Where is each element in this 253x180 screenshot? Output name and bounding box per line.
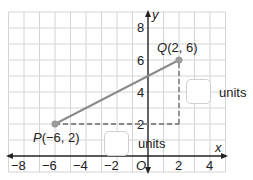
x-tick-minus-8: −8 [11, 159, 26, 172]
vertical-length-answer-box[interactable] [186, 79, 211, 104]
horizontal-units-label: units [138, 137, 165, 150]
x-tick-4: 4 [206, 159, 213, 172]
point-q-label: Q(2, 6) [157, 41, 197, 54]
y-tick-2: 2 [137, 118, 144, 131]
point-p-name: P [33, 130, 42, 145]
x-tick-2: 2 [175, 159, 182, 172]
y-tick-8: 8 [137, 21, 144, 34]
y-tick-6: 6 [137, 54, 144, 67]
point-p-label: P(−6, 2) [33, 131, 80, 144]
x-axis-label: x [215, 141, 222, 154]
vertical-units-label: units [219, 86, 246, 99]
point-p [52, 121, 59, 128]
origin-label: O [136, 159, 146, 172]
point-q-coords: (2, 6) [167, 40, 197, 55]
x-tick-minus-4: −4 [73, 159, 88, 172]
point-p-coords: (−6, 2) [42, 130, 80, 145]
x-tick-minus-6: −6 [42, 159, 57, 172]
point-q-name: Q [157, 40, 167, 55]
y-tick-4: 4 [137, 86, 144, 99]
x-tick-minus-2: −2 [104, 159, 119, 172]
coordinate-diagram: −8 −6 −4 −2 2 4 O 8 6 4 2 y x Q(2, 6) P(… [0, 0, 253, 180]
point-q [176, 57, 183, 64]
horizontal-length-answer-box[interactable] [104, 131, 129, 156]
y-axis-label: y [152, 8, 159, 21]
